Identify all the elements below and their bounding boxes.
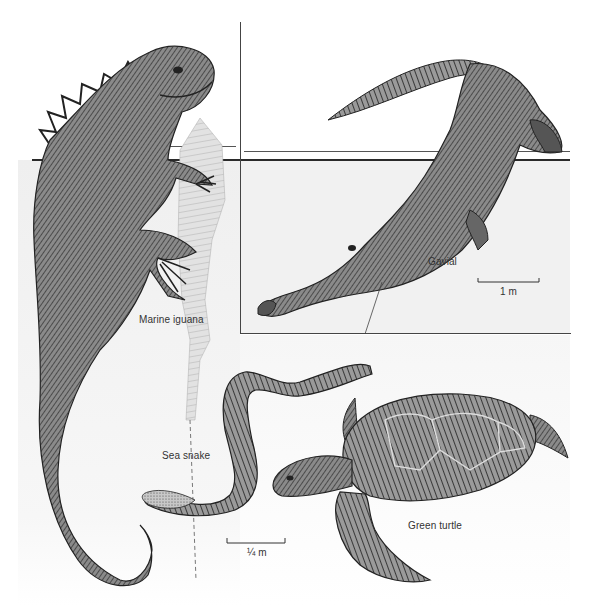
gavial-drawing	[258, 60, 562, 316]
sea-snake-drawing	[142, 364, 372, 515]
label-green-turtle: Green turtle	[408, 520, 462, 531]
green-turtle-drawing	[273, 394, 568, 582]
scale-label-quarter-m: ¼ m	[247, 547, 267, 558]
label-sea-snake: Sea snake	[162, 450, 210, 461]
label-gavial: Gavial	[428, 256, 457, 267]
label-marine-iguana: Marine iguana	[139, 314, 204, 325]
scale-bar-1m	[478, 278, 539, 282]
scale-bar-quarter-m	[227, 538, 285, 543]
scale-label-1m: 1 m	[500, 286, 517, 297]
illustration-stage: Marine iguana Gavial Sea snake Green tur…	[0, 0, 597, 606]
animal-drawings	[0, 0, 597, 606]
